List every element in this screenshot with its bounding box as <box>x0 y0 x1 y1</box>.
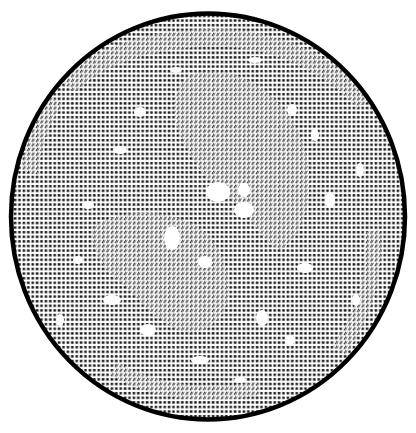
textured-circle <box>0 0 416 433</box>
figure-canvas <box>0 0 416 433</box>
white-patch <box>248 57 262 63</box>
white-patch <box>287 104 297 116</box>
white-patch <box>325 192 335 208</box>
white-patch <box>170 67 182 73</box>
white-patch <box>198 256 212 268</box>
white-patch <box>285 335 295 345</box>
white-patch <box>113 146 127 154</box>
white-patch <box>311 129 319 141</box>
white-patch <box>238 183 250 197</box>
white-patch <box>206 182 230 202</box>
white-patch <box>234 202 254 218</box>
white-patch <box>297 263 313 273</box>
white-patch <box>352 294 360 306</box>
dot-texture <box>0 0 416 433</box>
white-patch <box>73 256 83 264</box>
white-patch <box>191 356 209 364</box>
circle-texture <box>0 0 416 433</box>
white-patch <box>256 310 268 326</box>
white-patch <box>164 226 180 250</box>
white-patch <box>56 314 64 326</box>
white-patch <box>103 295 121 305</box>
white-patch <box>356 163 364 177</box>
white-patch <box>140 324 156 336</box>
white-patch <box>134 107 146 117</box>
white-patch <box>82 201 94 209</box>
white-patch <box>234 377 246 383</box>
